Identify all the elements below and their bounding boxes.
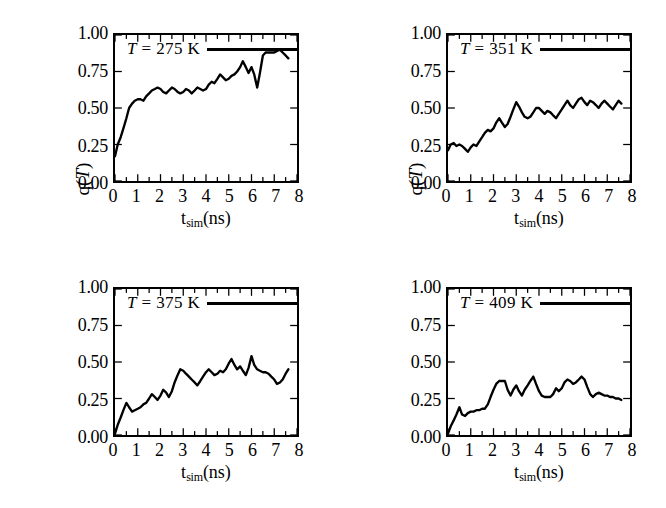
x-tick-label: 0 — [442, 440, 451, 460]
x-tick-label: 8 — [295, 440, 304, 460]
x-tick-label: 8 — [295, 186, 304, 206]
x-tick-label: 4 — [535, 440, 544, 460]
y-tick-label: 0.50 — [379, 353, 441, 371]
y-axis-tick-labels-2: 1.000.750.500.250.00 — [44, 254, 108, 508]
x-tick-label: 5 — [225, 440, 234, 460]
y-tick-label: 0.75 — [46, 316, 108, 334]
x-tick-label: 3 — [511, 186, 520, 206]
x-tick-label: 6 — [581, 186, 590, 206]
x-axis-tick-labels-3: 012345678 — [446, 440, 632, 464]
legend-line-sample-1 — [540, 48, 632, 51]
y-tick-label: 0.25 — [46, 391, 108, 409]
y-tick-label: 0.75 — [379, 62, 441, 80]
x-tick-label: 5 — [225, 186, 234, 206]
x-tick-label: 6 — [248, 186, 257, 206]
legend-line-sample-3 — [540, 302, 632, 305]
x-tick-label: 4 — [202, 440, 211, 460]
y-axis-title-2: q(T) — [8, 104, 158, 254]
chart-panel-409k: q(T) 1.000.750.500.250.00 T = 409 K 0123… — [333, 254, 666, 508]
multi-panel-figure: q(T) 1.000.750.500.250.00 T = 275 K 0123… — [0, 0, 666, 508]
chart-panel-375k: q(T) 1.000.750.500.250.00 T = 375 K 0123… — [0, 254, 333, 508]
y-axis-tick-labels-3: 1.000.750.500.250.00 — [377, 254, 441, 508]
x-tick-label: 5 — [558, 186, 567, 206]
x-tick-label: 4 — [202, 186, 211, 206]
x-axis-tick-labels-2: 012345678 — [113, 440, 299, 464]
y-tick-label: 0.75 — [379, 316, 441, 334]
x-tick-label: 7 — [604, 186, 613, 206]
x-tick-label: 3 — [511, 440, 520, 460]
legend-line-sample-0 — [207, 48, 299, 51]
x-tick-label: 3 — [178, 186, 187, 206]
x-tick-label: 6 — [581, 440, 590, 460]
y-tick-label: 0.00 — [379, 428, 441, 446]
x-axis-title-2: tsim(ns) — [113, 462, 299, 485]
y-tick-label: 1.00 — [46, 24, 108, 42]
x-tick-label: 2 — [155, 440, 164, 460]
y-tick-label: 1.00 — [379, 278, 441, 296]
legend-line-sample-2 — [207, 302, 299, 305]
x-axis-title-3: tsim(ns) — [446, 462, 632, 485]
y-tick-label: 1.00 — [379, 24, 441, 42]
y-tick-label: 0.25 — [379, 391, 441, 409]
x-tick-label: 7 — [271, 186, 280, 206]
x-tick-label: 4 — [535, 186, 544, 206]
x-tick-label: 2 — [488, 440, 497, 460]
legend-2: T = 375 K — [113, 292, 299, 314]
x-tick-label: 7 — [604, 440, 613, 460]
y-axis-title-3: q(T) — [341, 104, 491, 254]
legend-3: T = 409 K — [446, 292, 632, 314]
x-tick-label: 6 — [248, 440, 257, 460]
x-tick-label: 7 — [271, 440, 280, 460]
x-tick-label: 8 — [628, 186, 637, 206]
x-tick-label: 0 — [109, 440, 118, 460]
y-tick-label: 1.00 — [46, 278, 108, 296]
y-tick-label: 0.75 — [46, 62, 108, 80]
legend-0: T = 275 K — [113, 38, 299, 60]
x-tick-label: 3 — [178, 440, 187, 460]
legend-1: T = 351 K — [446, 38, 632, 60]
x-tick-label: 1 — [132, 440, 141, 460]
y-tick-label: 0.00 — [46, 428, 108, 446]
y-tick-label: 0.50 — [46, 353, 108, 371]
x-tick-label: 1 — [465, 440, 474, 460]
x-tick-label: 5 — [558, 440, 567, 460]
x-tick-label: 8 — [628, 440, 637, 460]
